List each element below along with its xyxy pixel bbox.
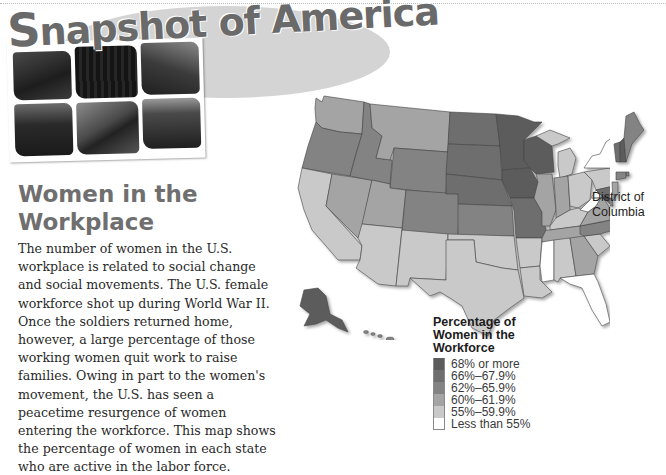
legend-swatch (433, 418, 445, 430)
state-ms (540, 240, 554, 282)
map-legend: Percentage of Women in the Workforce 68%… (433, 316, 563, 430)
photo-rocky-landscape (13, 51, 72, 101)
photo-rural-farm (142, 98, 201, 150)
photo-victorian-house (14, 103, 73, 157)
dc-callout-label: District of Columbia (592, 190, 666, 220)
legend-swatch (433, 406, 445, 418)
state-wy (390, 148, 448, 194)
article-body: The number of women in the U.S. workplac… (18, 240, 282, 475)
photo-billboard-building (76, 101, 139, 155)
state-mi (558, 148, 576, 178)
legend-swatch (433, 358, 445, 370)
legend-item: Less than 55% (433, 418, 563, 430)
state-vt (614, 142, 620, 162)
us-choropleth-map (280, 70, 610, 340)
state-ak (300, 288, 348, 332)
banner-title-initial: S (6, 2, 41, 58)
state-ar (516, 238, 542, 268)
legend-label: Less than 55% (451, 417, 530, 431)
section-title: Women in the Workplace (18, 180, 258, 236)
state-az (356, 224, 402, 286)
state-me (624, 112, 644, 162)
state-nd (448, 112, 500, 146)
legend-swatch (433, 370, 445, 382)
legend-swatch (433, 382, 445, 394)
state-hi (364, 330, 395, 340)
legend-title: Percentage of Women in the Workforce (433, 316, 563, 355)
state-fl (560, 274, 610, 326)
state-ct (616, 172, 626, 180)
state-ri (626, 172, 629, 176)
state-co (402, 190, 460, 236)
legend-swatch (433, 394, 445, 406)
state-ks (458, 204, 514, 236)
state-nm (396, 230, 448, 286)
